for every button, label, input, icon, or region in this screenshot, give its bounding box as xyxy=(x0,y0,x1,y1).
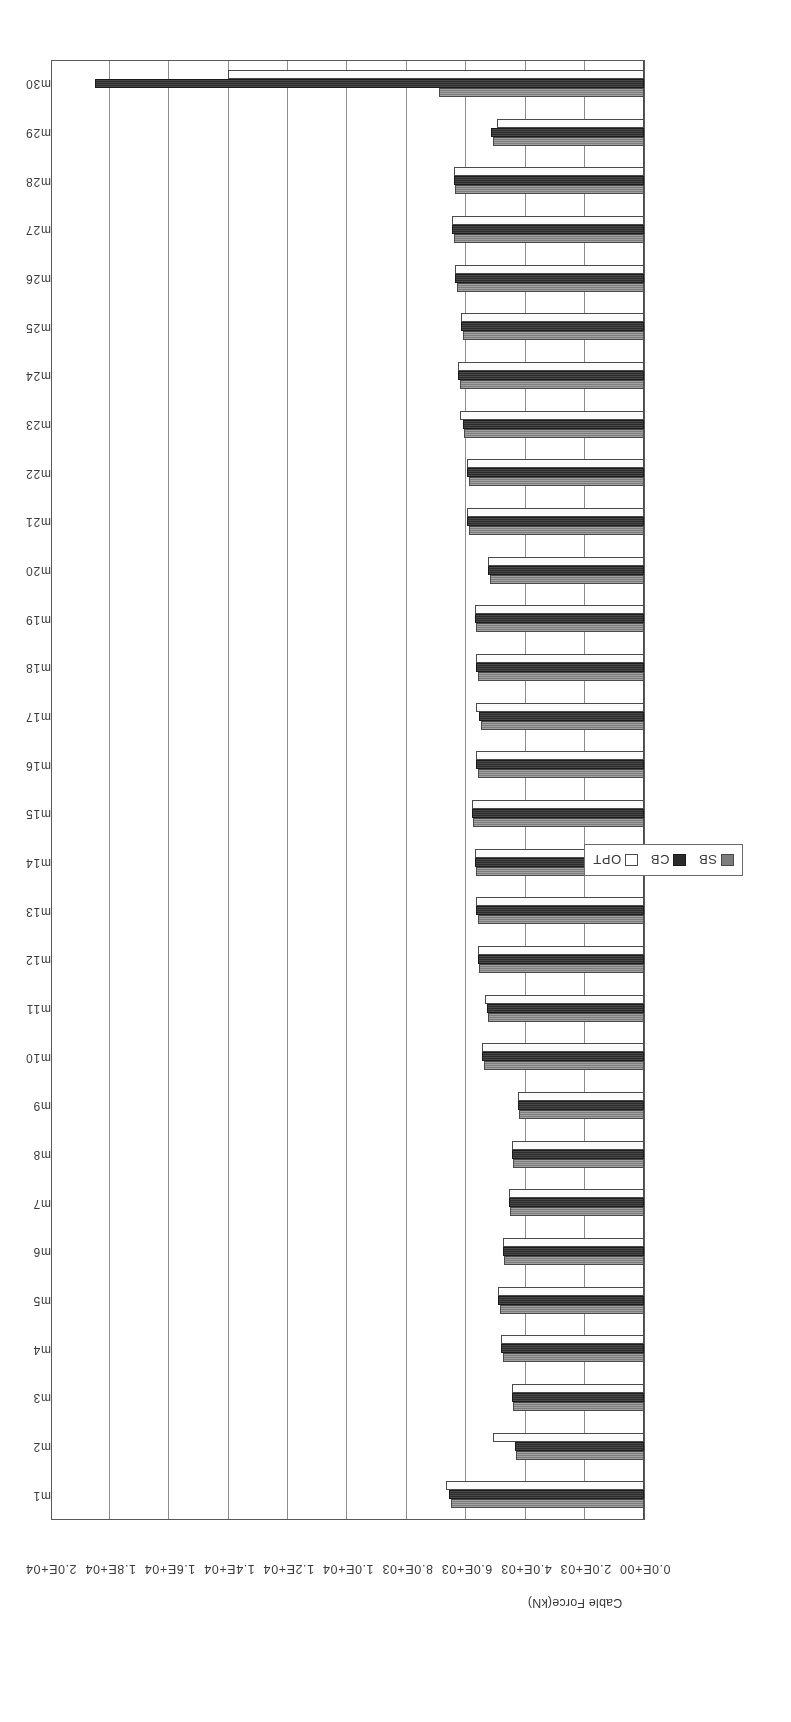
bar-group xyxy=(52,497,644,546)
bar-sb-m10 xyxy=(484,1061,644,1070)
bar-group xyxy=(52,1081,644,1130)
bar-sb-m25 xyxy=(463,331,644,340)
bar-opt-m5 xyxy=(498,1287,644,1296)
bar-opt-m13 xyxy=(476,897,644,906)
bar-group xyxy=(52,594,644,643)
bar-sb-m20 xyxy=(490,575,644,584)
bar-cb-m27 xyxy=(452,225,644,234)
bar-group xyxy=(52,886,644,935)
bar-cb-m19 xyxy=(475,614,644,623)
category-label-m2: m2 xyxy=(1,1440,51,1454)
bar-group xyxy=(52,984,644,1033)
bar-sb-m6 xyxy=(504,1256,644,1265)
bar-sb-m18 xyxy=(478,672,644,681)
category-label-m6: m6 xyxy=(1,1245,51,1259)
legend-swatch-opt xyxy=(625,854,638,866)
category-axis-tick-labels: m1m2m3m4m5m6m7m8m9m10m11m12m13m14m15m16m… xyxy=(1,60,51,1520)
bar-opt-m11 xyxy=(485,995,644,1004)
bar-group xyxy=(52,156,644,205)
bar-cb-m16 xyxy=(476,760,644,769)
bar-sb-m12 xyxy=(479,964,644,973)
category-label-m12: m12 xyxy=(1,953,51,967)
bar-group xyxy=(52,1324,644,1373)
bar-opt-m21 xyxy=(467,508,644,517)
bar-opt-m23 xyxy=(460,411,644,420)
bar-cb-m15 xyxy=(472,809,644,818)
bar-opt-m25 xyxy=(461,313,644,322)
category-label-m28: m28 xyxy=(1,175,51,189)
bar-cb-m9 xyxy=(518,1101,644,1110)
category-label-m13: m13 xyxy=(1,905,51,919)
bar-cb-m23 xyxy=(463,420,644,429)
bar-sb-m4 xyxy=(503,1353,644,1362)
category-label-m27: m27 xyxy=(1,223,51,237)
bar-cb-m6 xyxy=(503,1247,644,1256)
bar-group xyxy=(52,60,644,108)
bar-opt-m15 xyxy=(472,800,644,809)
bar-group xyxy=(52,1032,644,1081)
bar-group xyxy=(52,1373,644,1422)
bar-cb-m28 xyxy=(454,176,644,185)
chart-legend: SB CB OPT xyxy=(584,844,743,876)
category-label-m25: m25 xyxy=(1,321,51,335)
bar-group xyxy=(52,400,644,449)
bar-opt-m2 xyxy=(493,1433,644,1442)
bar-cb-m12 xyxy=(478,955,644,964)
category-label-m7: m7 xyxy=(1,1197,51,1211)
bar-cb-m17 xyxy=(479,712,644,721)
legend-item-sb: SB xyxy=(698,853,734,868)
category-label-m14: m14 xyxy=(1,856,51,870)
bar-sb-m21 xyxy=(469,526,644,535)
category-label-m23: m23 xyxy=(1,418,51,432)
bar-group xyxy=(52,1130,644,1179)
legend-label-opt: OPT xyxy=(593,853,622,868)
bar-sb-m24 xyxy=(460,380,644,389)
bar-sb-m8 xyxy=(513,1159,644,1168)
bar-cb-m24 xyxy=(458,371,644,380)
legend-swatch-cb xyxy=(673,854,686,866)
legend-label-sb: SB xyxy=(698,853,717,868)
bar-sb-m13 xyxy=(478,915,644,924)
bar-group xyxy=(52,302,644,351)
bar-group xyxy=(52,838,644,887)
bar-cb-m29 xyxy=(491,128,644,137)
category-label-m26: m26 xyxy=(1,272,51,286)
bar-cb-m2 xyxy=(515,1442,644,1451)
category-label-m8: m8 xyxy=(1,1148,51,1162)
category-label-m19: m19 xyxy=(1,613,51,627)
bar-cb-m30 xyxy=(95,79,644,88)
category-label-m29: m29 xyxy=(1,126,51,140)
category-label-m16: m16 xyxy=(1,759,51,773)
category-label-m1: m1 xyxy=(1,1489,51,1503)
bar-opt-m8 xyxy=(512,1141,644,1150)
bar-opt-m29 xyxy=(497,119,644,128)
bar-group xyxy=(52,692,644,741)
bar-cb-m11 xyxy=(487,1004,644,1013)
category-label-m11: m11 xyxy=(1,1002,51,1016)
bar-opt-m26 xyxy=(455,265,644,274)
bar-sb-m3 xyxy=(513,1402,644,1411)
bar-cb-m13 xyxy=(476,906,644,915)
bar-group xyxy=(52,448,644,497)
category-label-m4: m4 xyxy=(1,1343,51,1357)
bar-sb-m26 xyxy=(457,283,644,292)
bar-sb-m2 xyxy=(516,1451,644,1460)
category-label-m17: m17 xyxy=(1,710,51,724)
category-label-m5: m5 xyxy=(1,1294,51,1308)
bar-opt-m7 xyxy=(509,1189,644,1198)
bar-sb-m16 xyxy=(478,769,644,778)
bar-opt-m6 xyxy=(503,1238,644,1247)
bar-opt-m10 xyxy=(482,1043,644,1052)
bar-opt-m17 xyxy=(476,703,644,712)
bar-sb-m5 xyxy=(500,1305,644,1314)
bar-group xyxy=(52,1470,644,1519)
category-label-m24: m24 xyxy=(1,369,51,383)
bar-sb-m22 xyxy=(469,477,644,486)
bar-opt-m24 xyxy=(458,362,644,371)
bar-cb-m22 xyxy=(467,468,644,477)
bar-group xyxy=(52,1227,644,1276)
legend-item-opt: OPT xyxy=(593,853,639,868)
plot-area xyxy=(51,60,645,1520)
legend-swatch-sb xyxy=(721,854,734,866)
category-label-m21: m21 xyxy=(1,515,51,529)
